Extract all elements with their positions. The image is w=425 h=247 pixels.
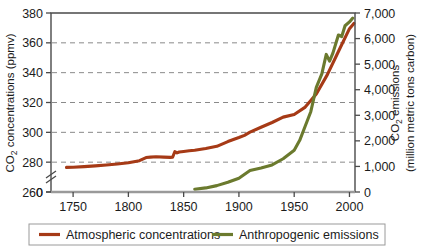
right-axis-title: CO2 emissions [389, 65, 404, 142]
svg-text:CO2 emissions: CO2 emissions [389, 65, 404, 142]
x-axis-ticks: 175018001850190019502000 [59, 192, 363, 214]
left-tick-label-360: 360 [22, 36, 43, 50]
x-tick-label-1800: 1800 [114, 200, 142, 214]
left-tick-label-0: 0 [36, 186, 43, 200]
right-axis-title-line2: (million metric tons carbon) [404, 34, 416, 172]
right-tick-label-6000: 6,000 [364, 32, 395, 46]
chart-legend: Atmospheric concentrations Anthropogenic… [29, 224, 385, 245]
left-tick-label-280: 280 [22, 156, 43, 170]
legend-label-atmospheric-concentrations: Atmospheric concentrations [66, 228, 220, 242]
x-tick-label-1850: 1850 [170, 200, 198, 214]
chart-svg: 2602803003203403603800 01,0002,0003,0004… [0, 0, 425, 247]
x-tick-label-1950: 1950 [280, 200, 308, 214]
right-tick-label-7000: 7,000 [364, 7, 395, 21]
legend-item-atmospheric-concentrations[interactable]: Atmospheric concentrations [39, 228, 220, 242]
x-tick-label-2000: 2000 [336, 200, 364, 214]
left-axis-title: CO2 concentrations (ppmv) [4, 33, 19, 172]
legend-label-anthropogenic-emissions: Anthropogenic emissions [239, 228, 379, 242]
left-tick-label-340: 340 [22, 66, 43, 80]
svg-text:CO2 concentrations (ppmv): CO2 concentrations (ppmv) [4, 33, 19, 172]
x-tick-label-1900: 1900 [225, 200, 253, 214]
right-tick-label-1000: 1,000 [364, 160, 395, 174]
svg-text:(million metric tons carbon): (million metric tons carbon) [404, 34, 416, 172]
left-axis-ticks: 2602803003203403603800 [22, 7, 51, 200]
left-tick-label-380: 380 [22, 7, 43, 21]
left-tick-label-300: 300 [22, 126, 43, 140]
x-tick-label-1750: 1750 [59, 200, 87, 214]
left-tick-label-320: 320 [22, 96, 43, 110]
co2-chart-figure: 2602803003203403603800 01,0002,0003,0004… [0, 0, 425, 247]
right-tick-label-0: 0 [364, 186, 371, 200]
